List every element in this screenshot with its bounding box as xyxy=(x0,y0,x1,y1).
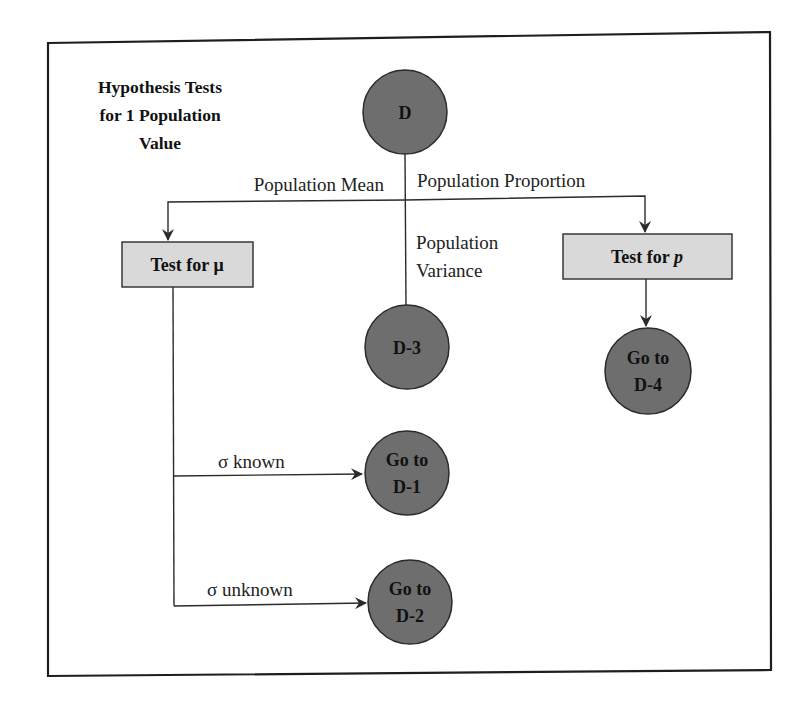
title-line-3: Value xyxy=(139,133,181,153)
edge-label-sigma-known: σ known xyxy=(218,451,285,472)
edge-label-sigma-unknown: σ unknown xyxy=(207,579,293,600)
node-d1-line-1: Go to xyxy=(386,450,429,470)
flowchart-canvas: Hypothesis Tests for 1 Population Value … xyxy=(0,0,807,728)
node-d4: Go to D-4 xyxy=(605,328,691,414)
title-line-2: for 1 Population xyxy=(99,105,220,125)
title-line-1: Hypothesis Tests xyxy=(98,77,222,97)
node-test-p-prefix: Test for xyxy=(611,247,674,267)
node-d3-label: D-3 xyxy=(393,338,421,358)
edge-label-population-proportion: Population Proportion xyxy=(417,170,586,191)
node-test-p: Test for p xyxy=(563,234,732,279)
node-d1: Go to D-1 xyxy=(365,431,449,515)
edge-label-population-mean: Population Mean xyxy=(254,174,385,195)
node-root-d: D xyxy=(363,70,447,154)
edge-label-population-variance-1: Population xyxy=(416,232,499,253)
edge-label-population-variance-2: Variance xyxy=(416,260,482,281)
node-d2: Go to D-2 xyxy=(368,560,452,644)
node-d1-line-2: D-1 xyxy=(393,477,421,497)
node-d4-line-1: Go to xyxy=(627,348,670,368)
node-test-mu-label: Test for μ xyxy=(150,255,223,275)
node-test-mu: Test for μ xyxy=(122,242,253,287)
node-d2-line-2: D-2 xyxy=(396,606,424,626)
node-test-p-var: p xyxy=(672,247,683,267)
node-d4-line-2: D-4 xyxy=(634,375,662,395)
node-d3: D-3 xyxy=(365,305,449,389)
connector-root-to-d3 xyxy=(405,154,406,305)
node-test-p-label: Test for p xyxy=(611,247,683,267)
node-d2-line-1: Go to xyxy=(389,579,432,599)
node-root-label: D xyxy=(399,103,412,123)
